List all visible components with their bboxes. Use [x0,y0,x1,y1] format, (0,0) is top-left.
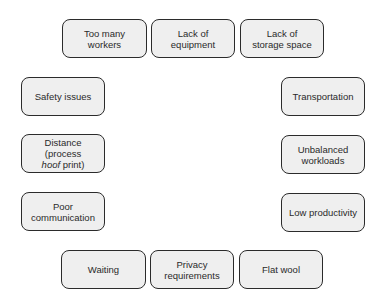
box-label-line1: Unbalanced [298,144,349,155]
box-label: Waiting [88,264,119,275]
box-label-line2: hoof print) [25,159,101,170]
box-flat-wool: Flat wool [239,250,323,289]
box-label-line2: equipment [171,39,215,50]
box-lack-of-equipment: Lack of equipment [151,19,235,58]
box-privacy-requirements: Privacy requirements [150,250,234,289]
box-waiting: Waiting [61,250,146,289]
box-poor-communication: Poor communication [21,192,105,231]
box-label-line2: workers [84,39,125,50]
box-label-line2: workloads [298,155,349,166]
box-label-italic: hoof [42,159,61,170]
box-label-line1: Lack of [252,28,312,39]
box-label: Transportation [293,91,354,102]
box-label-line1: Privacy [164,259,219,270]
box-label: Low productivity [289,207,357,218]
box-label-line2: communication [31,212,95,223]
box-label: Flat wool [262,264,300,275]
box-label: Safety issues [35,91,92,102]
box-label-line1: Lack of [171,28,215,39]
box-label-line1: Poor [31,201,95,212]
box-lack-of-storage-space: Lack of storage space [240,19,324,58]
box-unbalanced-workloads: Unbalanced workloads [281,135,365,174]
box-label-line1: Too many [84,28,125,39]
box-transportation: Transportation [281,77,365,116]
box-label-line2: storage space [252,39,312,50]
box-safety-issues: Safety issues [21,77,105,116]
box-too-many-workers: Too many workers [62,19,147,58]
box-label-line2: requirements [164,270,219,281]
box-low-productivity: Low productivity [281,193,365,232]
box-label-line1: Distance (process [25,137,101,159]
box-distance-process-hoof-print: Distance (process hoof print) [21,134,105,173]
box-label-rest: print) [60,159,84,170]
